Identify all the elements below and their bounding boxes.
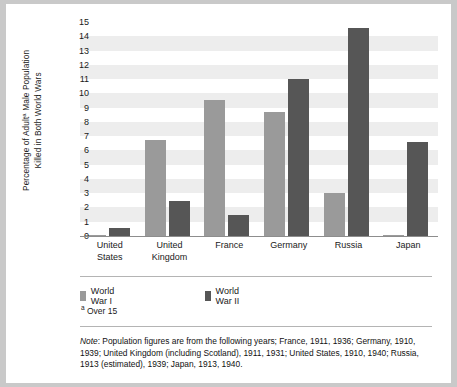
note-divider [80, 326, 432, 327]
legend-label: World War I [91, 286, 119, 306]
legend-item[interactable]: World War I [80, 286, 118, 306]
note-text: Note: Population figures are from the fo… [80, 336, 436, 371]
note-body: Population figures are from the followin… [80, 336, 419, 369]
y-tick-label: 14 [69, 31, 89, 41]
y-tick-label: 2 [69, 202, 89, 212]
y-tick-label: 10 [69, 88, 89, 98]
y-tick-label: 9 [69, 103, 89, 113]
x-tick-label: Japan [370, 240, 446, 252]
footnote-label: Over 15 [87, 306, 117, 316]
legend-swatch [205, 291, 211, 301]
y-tick-label: 15 [69, 17, 89, 27]
footnote-marker: a [81, 304, 85, 311]
legend-label: World War II [216, 286, 244, 306]
y-tick-label: 4 [69, 174, 89, 184]
y-tick-label: 13 [69, 46, 89, 56]
y-tick-label: 6 [69, 145, 89, 155]
note-label: Note [80, 336, 98, 346]
y-tick-label: 3 [69, 188, 89, 198]
figure-panel: Percentage of Adulta Male PopulationKill… [6, 4, 451, 383]
y-tick-label: 11 [69, 74, 89, 84]
y-tick-label: 7 [69, 131, 89, 141]
footnote-over-15: a Over 15 [81, 304, 117, 316]
legend-swatch [80, 291, 86, 301]
y-tick-label: 8 [69, 117, 89, 127]
y-tick-label: 12 [69, 60, 89, 70]
x-axis-labels: UnitedStatesUnitedKingdomFranceGermanyRu… [80, 240, 438, 270]
y-tick-label: 1 [69, 217, 89, 227]
legend-item[interactable]: World War II [205, 286, 243, 306]
y-tick-label: 5 [69, 160, 89, 170]
chart-bottom-rule [80, 276, 432, 277]
y-axis-ticks: 0123456789101112131415 [6, 4, 451, 272]
bar-chart: Percentage of Adulta Male PopulationKill… [6, 4, 451, 272]
x-axis-baseline [80, 236, 438, 237]
